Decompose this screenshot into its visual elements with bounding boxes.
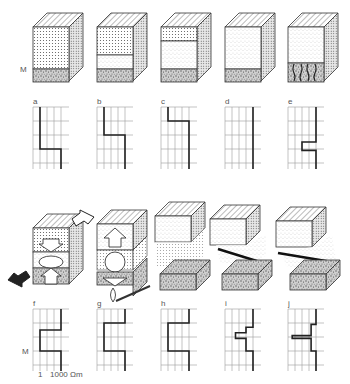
grid [33, 107, 69, 169]
scale-max-label: 1000 Ωm [50, 370, 83, 379]
shear-arrow-left-icon [8, 271, 30, 287]
resistivity-curve [236, 309, 254, 371]
grid [161, 309, 197, 371]
profile-f: f [33, 299, 69, 371]
panel-label-f: f [33, 299, 36, 308]
profile-i: i [225, 299, 261, 371]
panel-label-e: e [288, 97, 293, 106]
grid [161, 107, 197, 169]
cavity-icon [39, 256, 63, 268]
resistivity-curve [104, 309, 125, 371]
profile-b: b [97, 97, 133, 169]
resistivity-curve [292, 309, 316, 371]
scale-min-label: 1 [38, 370, 43, 379]
resistivity-curve [104, 107, 125, 169]
profile-a: a [33, 97, 69, 169]
block-g [97, 210, 150, 302]
profile-c: c [161, 97, 197, 169]
panel-label-d: d [225, 97, 229, 106]
grid [33, 309, 69, 371]
panel-label-j: j [287, 299, 290, 308]
grid [225, 309, 261, 371]
block-i [210, 205, 272, 290]
resistivity-figure: M abcde [0, 0, 350, 384]
flame-icon [111, 288, 116, 302]
grid [97, 107, 133, 169]
grid [225, 107, 261, 169]
void-icon [105, 252, 125, 272]
grid [97, 309, 133, 371]
block-c [161, 13, 211, 82]
block-a [33, 13, 83, 82]
block-b [97, 13, 147, 82]
block-f [8, 210, 94, 287]
panel-label-g: g [97, 299, 101, 308]
resistivity-curve [168, 107, 189, 169]
block-h [155, 202, 210, 290]
profile-h: h [161, 299, 197, 371]
panel-label-a: a [33, 97, 38, 106]
block-j [276, 207, 340, 290]
panel-label-h: h [161, 299, 165, 308]
grid [288, 107, 324, 169]
profile-g: g [97, 299, 133, 371]
panel-label-i: i [225, 299, 227, 308]
panel-label-b: b [97, 97, 102, 106]
marker-label-bottom: M [22, 347, 29, 356]
profile-e: e [288, 97, 324, 169]
marker-label-top: M [20, 65, 27, 74]
profile-d: d [225, 97, 261, 169]
resistivity-curve [40, 107, 61, 169]
profile-j: j [287, 299, 324, 371]
panel-label-c: c [161, 97, 165, 106]
resistivity-curve [40, 309, 61, 371]
block-e [288, 13, 338, 82]
block-d [225, 13, 275, 82]
grid [288, 309, 324, 371]
resistivity-curve [168, 309, 189, 371]
